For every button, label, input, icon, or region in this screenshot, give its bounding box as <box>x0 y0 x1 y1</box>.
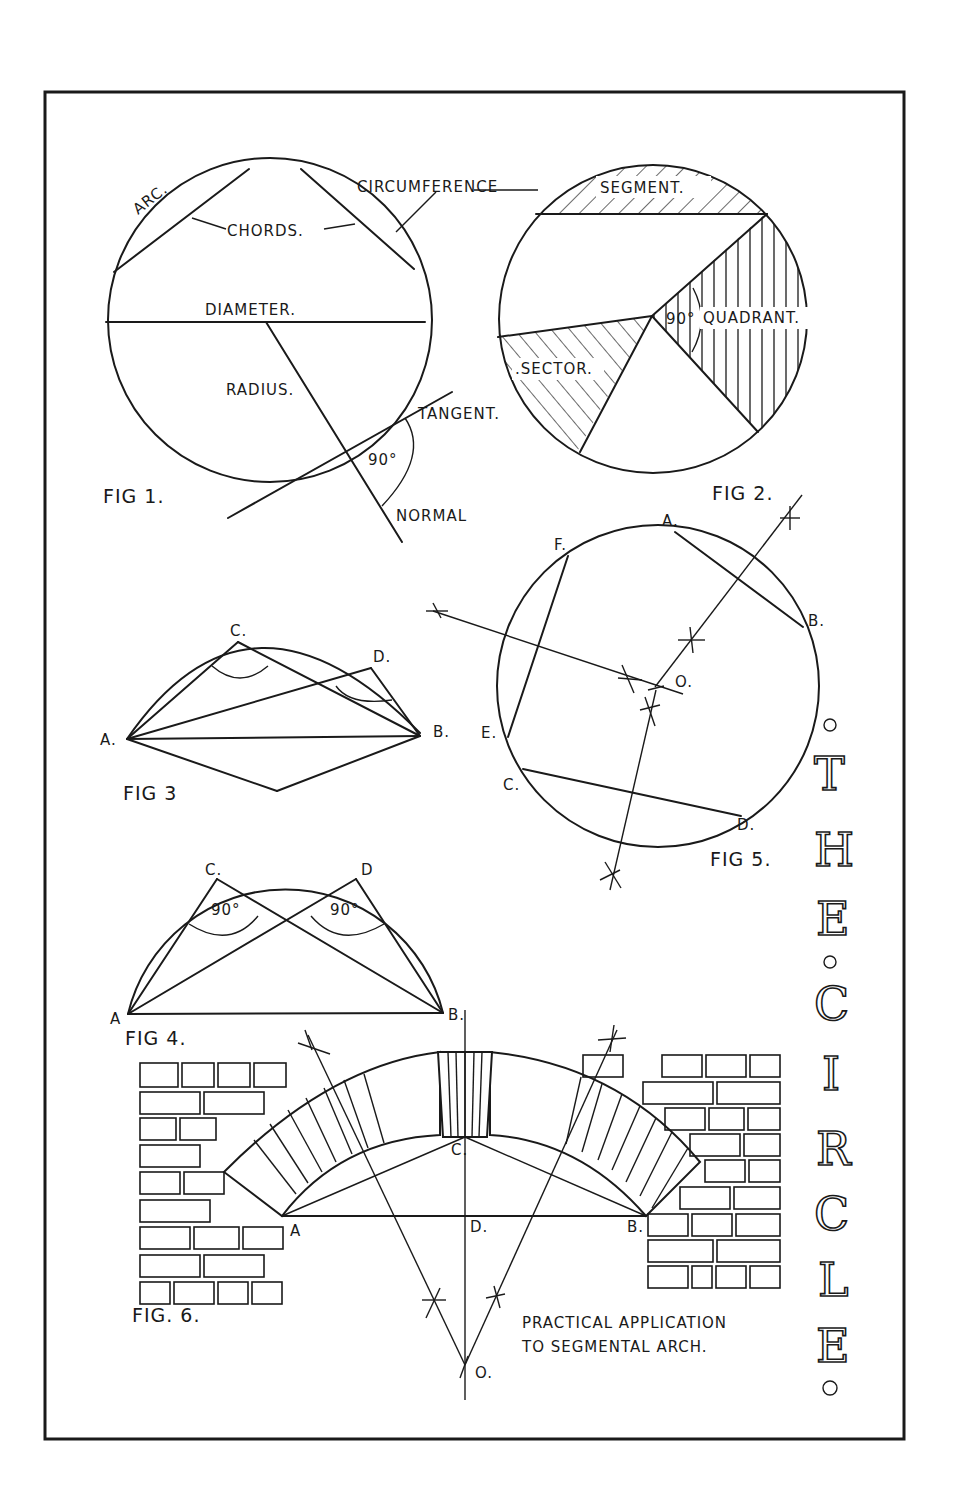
ornament-dot <box>824 719 836 731</box>
right-brickwork <box>583 1055 780 1288</box>
point-f: F. <box>554 536 567 554</box>
figure-4-caption: FIG 4. <box>125 1027 186 1049</box>
point-c: C. <box>451 1141 468 1159</box>
label-arc: ARC. <box>129 180 171 218</box>
figure-2-caption: FIG 2. <box>712 482 773 504</box>
label-angle-90: 90° <box>368 451 398 469</box>
title-letter-c: C <box>814 977 850 1031</box>
point-a: A. <box>662 512 679 530</box>
figure-6-caption: FIG. 6. <box>132 1304 200 1326</box>
point-o: O. <box>675 673 693 691</box>
figure-1-circle-parts: ARC. CIRCUMFERENCE CHORDS. DIAMETER. RAD… <box>103 158 538 542</box>
label-quadrant: QUADRANT. <box>703 309 800 327</box>
title-letter-c2: C <box>814 1187 850 1241</box>
figure-5-finding-centre: A. B. C. D. E. F. O. FIG 5. <box>426 495 825 890</box>
point-a: A <box>290 1222 301 1240</box>
point-b: B. <box>433 723 450 741</box>
figure-1-caption: FIG 1. <box>103 485 164 507</box>
label-normal: NORMAL <box>396 507 467 525</box>
figure-2-circle-regions: SEGMENT. QUADRANT. 90° .SECTOR. FIG 2. <box>490 160 820 504</box>
figure-6-segmental-arch: A B. C. D. O. FIG. 6. PRACTICAL APPLICAT… <box>132 1010 780 1400</box>
point-d: D <box>361 861 374 879</box>
point-d: D. <box>373 648 391 666</box>
title-letter-r: R <box>816 1122 852 1176</box>
point-b: B. <box>808 612 825 630</box>
label-segment: SEGMENT. <box>600 179 684 197</box>
figure-4-semicircle-right-angles: 90° 90° A B. C. D FIG 4. <box>110 861 465 1049</box>
label-tangent: TANGENT. <box>417 405 500 423</box>
point-d: D. <box>737 816 755 834</box>
angle-label-d: 90° <box>330 901 360 919</box>
left-brickwork <box>140 1063 286 1304</box>
point-o: O. <box>475 1364 493 1382</box>
title-letter-t: T <box>814 747 846 801</box>
vertical-title-the-circle: T H E C I R C L E <box>814 719 855 1395</box>
point-c: C. <box>503 776 520 794</box>
title-letter-e: E <box>816 892 851 946</box>
point-d: D. <box>470 1218 488 1236</box>
arch-note-line-2: TO SEGMENTAL ARCH. <box>521 1338 708 1356</box>
title-letter-i: I <box>822 1047 841 1101</box>
point-c: C. <box>230 622 247 640</box>
figure-3-caption: FIG 3 <box>123 782 177 804</box>
label-radius: RADIUS. <box>226 381 294 399</box>
title-letter-h: H <box>814 823 855 877</box>
ornament-dot <box>823 1381 837 1395</box>
circle-geometry-plate: ARC. CIRCUMFERENCE CHORDS. DIAMETER. RAD… <box>0 0 957 1509</box>
point-e: E. <box>481 724 497 742</box>
label-diameter: DIAMETER. <box>205 301 296 319</box>
point-b: B. <box>448 1006 465 1024</box>
label-chords: CHORDS. <box>227 222 304 240</box>
title-letter-e2: E <box>816 1319 851 1373</box>
arch-note-line-1: PRACTICAL APPLICATION <box>522 1314 727 1332</box>
title-letter-l: L <box>818 1253 850 1307</box>
label-circumference: CIRCUMFERENCE <box>357 178 498 196</box>
figure-5-caption: FIG 5. <box>710 848 771 870</box>
angle-label-c: 90° <box>211 901 241 919</box>
label-sector: .SECTOR. <box>515 360 593 378</box>
point-c: C. <box>205 861 222 879</box>
point-a: A <box>110 1010 121 1028</box>
label-angle-90: 90° <box>666 310 696 328</box>
figure-3-inscribed-angles: A. B. C. D. FIG 3 <box>100 622 450 804</box>
point-a: A. <box>100 731 117 749</box>
ornament-dot <box>824 956 836 968</box>
point-b: B. <box>627 1218 644 1236</box>
